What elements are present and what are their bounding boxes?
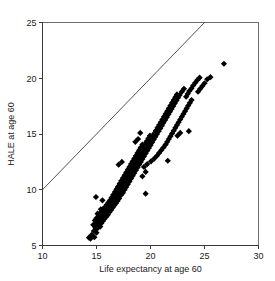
data-points-layer bbox=[86, 61, 227, 242]
data-point bbox=[186, 128, 192, 134]
y-tick-label: 20 bbox=[26, 74, 36, 84]
x-axis-title: Life expectancy at age 60 bbox=[99, 264, 202, 274]
data-point bbox=[143, 169, 149, 175]
data-point bbox=[139, 173, 145, 179]
identity-reference-line bbox=[43, 23, 205, 190]
y-tick-label: 5 bbox=[31, 241, 36, 251]
data-point bbox=[143, 191, 149, 197]
data-point bbox=[221, 61, 227, 67]
data-point bbox=[165, 158, 171, 164]
y-tick-label: 15 bbox=[26, 129, 36, 139]
identity-line bbox=[43, 23, 205, 190]
y-tick-label: 25 bbox=[26, 18, 36, 28]
tick-labels-layer: 1015202530510152025 bbox=[26, 18, 263, 261]
x-tick-label: 25 bbox=[199, 251, 209, 261]
data-point bbox=[137, 130, 143, 136]
plot-canvas: 1015202530510152025 Life expectancy at a… bbox=[0, 0, 275, 281]
x-tick-label: 20 bbox=[145, 251, 155, 261]
scatter-plot-figure: 1015202530510152025 Life expectancy at a… bbox=[0, 0, 275, 281]
data-point bbox=[93, 194, 99, 200]
data-point bbox=[99, 197, 105, 203]
x-tick-label: 10 bbox=[37, 251, 47, 261]
x-tick-label: 15 bbox=[91, 251, 101, 261]
y-axis-title: HALE at age 60 bbox=[6, 102, 16, 166]
x-tick-label: 30 bbox=[253, 251, 263, 261]
y-tick-label: 10 bbox=[26, 185, 36, 195]
